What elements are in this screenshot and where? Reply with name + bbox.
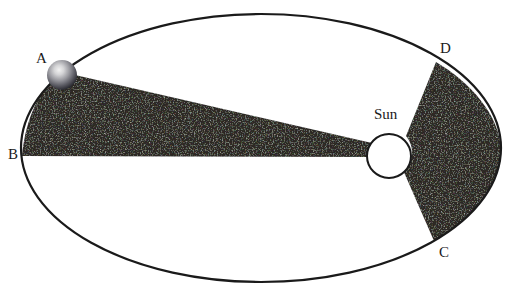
sun-label: Sun	[374, 107, 397, 122]
point-label-c: C	[439, 245, 449, 260]
sector-a-b-sun	[22, 72, 380, 157]
point-label-a: A	[36, 51, 47, 66]
sector-d-c-sun	[403, 62, 501, 241]
planet-sphere	[47, 60, 77, 90]
point-label-d: D	[440, 41, 451, 56]
point-label-b: B	[8, 147, 18, 162]
sun-circle	[367, 134, 411, 178]
